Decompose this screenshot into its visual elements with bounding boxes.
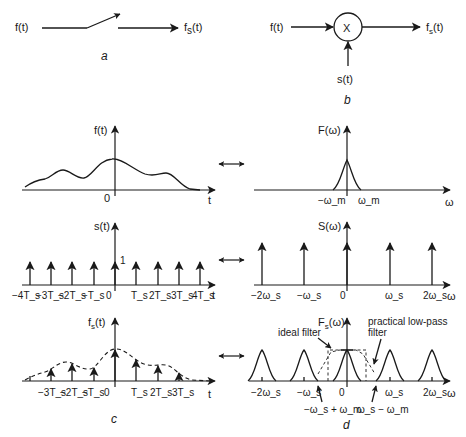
panel-a-output-label: fs(t) (184, 21, 202, 36)
impulse-height-label: 1 (120, 255, 126, 266)
Fs-omega-ylabel: Fs(ω) (318, 316, 345, 331)
panel-b-caption: b (344, 93, 351, 107)
omega-xlabel: ω (447, 387, 456, 399)
omega-xlabel: ω (445, 196, 454, 208)
multiplier-symbol: X (343, 22, 351, 34)
tick-label: 2T_s (150, 387, 172, 398)
panel-a-input-label: f(t) (15, 21, 28, 33)
tick-label: −2ω_s (251, 387, 281, 398)
ideal-filter-pointer (318, 338, 331, 348)
spectrum-replica (248, 350, 276, 381)
tick-label: 4T_s (192, 290, 214, 301)
tick-label: 3T_s (171, 290, 193, 301)
tick-label: 2ω_s (423, 387, 447, 398)
t-xlabel: t (208, 194, 211, 206)
tick-label: 0 (340, 290, 346, 301)
panel-b-output-label: fs(t) (426, 21, 443, 36)
panel-a-caption: a (101, 49, 108, 63)
s-t-ylabel: s(t) (94, 220, 110, 232)
tick-label: 3T_s (172, 387, 194, 398)
tick-label: ω_s (385, 290, 403, 301)
omega-xlabel: ω (447, 290, 456, 302)
left-edge-label: −ω_s + ω_m (304, 404, 361, 415)
tick-label: −ω_s (297, 290, 321, 301)
continuous-signal-curve (25, 159, 200, 190)
panel-a-switch-sampler: f(t) fs(t) a (15, 14, 202, 63)
fs-t-ylabel: fs(t) (88, 316, 105, 331)
practical-filter-label-1: practical low-pass (368, 316, 447, 327)
spectrum-replica (290, 350, 318, 381)
practical-filter-label-2: filter (368, 327, 388, 338)
spectral-impulses (262, 243, 432, 285)
spectrum-replica (418, 350, 446, 381)
tick-label: ω_s (385, 387, 403, 398)
ideal-filter-label: ideal filter (278, 327, 321, 338)
right-edge-pointer (372, 386, 376, 402)
tick-label: 2T_s (149, 290, 171, 301)
panel-b-input-label: f(t) (270, 21, 283, 33)
tick-label: 2ω_s (423, 290, 447, 301)
panel-b-sampling-label: s(t) (337, 73, 353, 85)
tick-label: −2ω_s (251, 290, 281, 301)
plot-f-t: f(t) 0 t (22, 124, 215, 206)
switch-blade-icon (87, 14, 120, 28)
plot-S-omega: S(ω) −2ω_s −ω_s 0 ω_s 2ω_s ω (251, 220, 456, 302)
tick-label: 0 (339, 387, 345, 398)
s-t-tick-labels: −4T_s −3T_s −2T_s −T_s 0 T_s 2T_s 3T_s 4… (12, 290, 214, 301)
plot-F-omega: F(ω) −ω_m ω_m ω (254, 124, 454, 208)
envelope-dashed-curve (25, 349, 210, 381)
impulse-train (30, 262, 200, 285)
spectrum-replica (376, 350, 404, 381)
plot-s-t: s(t) 1 −4T_s −3T_s −2T_s −T_s 0 T_s 2T_s… (12, 220, 215, 301)
panel-c-caption: c (111, 412, 117, 426)
right-edge-label: ω_s − ω_m (357, 404, 408, 415)
tick-neg-omega-m: −ω_m (318, 195, 346, 206)
t-xlabel: t (212, 289, 215, 301)
sampling-diagram: f(t) fs(t) a f(t) X fs(t) s(t) b f(t) 0 … (0, 0, 466, 437)
panel-b-multiplier: f(t) X fs(t) s(t) b (270, 13, 443, 107)
tick-label: −T_s (82, 387, 105, 398)
panel-d-caption: d (343, 418, 350, 432)
S-omega-ylabel: S(ω) (318, 220, 341, 232)
tick-label: −T_s (82, 290, 105, 301)
F-omega-ylabel: F(ω) (318, 124, 341, 136)
plot-Fs-omega: Fs(ω) ideal filter practical low-pass fi… (248, 316, 456, 432)
f-t-ylabel: f(t) (94, 124, 107, 136)
tick-label: 0 (106, 290, 112, 301)
plot-fs-t: fs(t) −3T_s −2T_s −T_s 0 T_s 2T_s 3T_s t… (22, 316, 215, 426)
tick-label: T_s (131, 290, 148, 301)
tick-label: −ω_s (297, 387, 321, 398)
tick-omega-m: ω_m (358, 195, 380, 206)
t-xlabel: t (208, 388, 211, 400)
tick-label: 0 (104, 387, 110, 398)
practical-filter-pointer (374, 339, 381, 364)
origin-label: 0 (104, 192, 110, 204)
tick-label: T_s (131, 387, 148, 398)
